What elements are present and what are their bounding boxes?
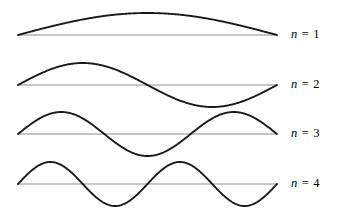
mode-label-n2: n = 2 <box>291 77 320 92</box>
mode-label-value: 1 <box>313 27 319 41</box>
wave-curve-n1 <box>18 13 277 35</box>
mode-label-value: 2 <box>313 77 319 91</box>
mode-label-n1: n = 1 <box>291 27 320 42</box>
mode-label-equals: = <box>297 27 313 41</box>
wave-canvas <box>0 0 337 224</box>
mode-label-equals: = <box>297 126 313 140</box>
mode-label-equals: = <box>297 176 313 190</box>
mode-label-value: 3 <box>313 126 319 140</box>
mode-label-n3: n = 3 <box>291 126 320 141</box>
mode-label-value: 4 <box>313 176 319 190</box>
mode-label-n4: n = 4 <box>291 176 320 191</box>
mode-label-equals: = <box>297 77 313 91</box>
harmonics-figure: n = 1n = 2n = 3n = 4 <box>0 0 337 224</box>
